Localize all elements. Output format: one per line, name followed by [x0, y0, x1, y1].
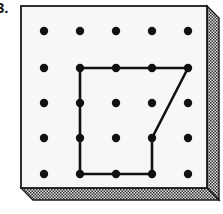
pin-r4-c5[interactable]	[184, 134, 192, 142]
pin-r2-c4[interactable]	[148, 64, 156, 72]
pin-r1-c5[interactable]	[184, 27, 192, 35]
pin-r3-c2[interactable]	[76, 99, 84, 107]
pin-r3-c1[interactable]	[40, 99, 48, 107]
pin-r5-c4[interactable]	[148, 170, 156, 178]
pin-r2-c5[interactable]	[184, 64, 192, 72]
pin-r5-c3[interactable]	[112, 170, 120, 178]
pin-r4-c2[interactable]	[76, 134, 84, 142]
pin-r3-c5[interactable]	[184, 99, 192, 107]
pin-r4-c4[interactable]	[148, 134, 156, 142]
pin-r1-c3[interactable]	[112, 27, 120, 35]
pin-r3-c3[interactable]	[112, 99, 120, 107]
pin-r5-c5[interactable]	[184, 170, 192, 178]
board-right-bevel-panel	[207, 6, 219, 200]
geoboard-figure: 3.	[0, 0, 223, 214]
pin-r4-c3[interactable]	[112, 134, 120, 142]
pin-r4-c1[interactable]	[40, 134, 48, 142]
pin-r1-c1[interactable]	[40, 27, 48, 35]
board-bottom-bevel-panel	[21, 188, 219, 200]
pin-r2-c1[interactable]	[40, 64, 48, 72]
pin-r2-c2[interactable]	[76, 64, 84, 72]
geoboard-illustration	[0, 0, 223, 214]
pin-r2-c3[interactable]	[112, 64, 120, 72]
pin-r1-c2[interactable]	[76, 27, 84, 35]
pin-r3-c4[interactable]	[148, 99, 156, 107]
pin-r1-c4[interactable]	[148, 27, 156, 35]
pin-r5-c1[interactable]	[40, 170, 48, 178]
pin-r5-c2[interactable]	[76, 170, 84, 178]
